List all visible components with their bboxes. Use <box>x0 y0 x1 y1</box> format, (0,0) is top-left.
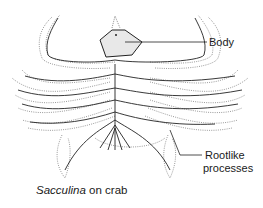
label-rootlike-line1: Rootlike <box>205 149 245 161</box>
caption-rest: on crab <box>86 184 128 196</box>
rootlike-leader-line <box>170 130 202 155</box>
label-body: Body <box>209 36 234 48</box>
caption-italic: Sacculina <box>36 184 86 196</box>
label-rootlike-line2: processes <box>203 162 253 174</box>
crab-diagram <box>0 0 263 208</box>
figure-caption: Sacculina on crab <box>36 184 127 196</box>
sacculina-body <box>100 30 142 57</box>
